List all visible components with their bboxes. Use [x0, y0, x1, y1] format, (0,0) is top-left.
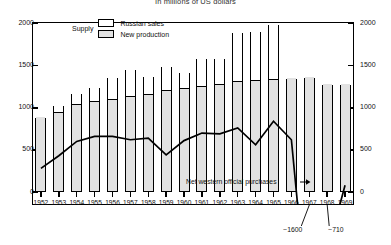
bar-segment-new-production-1964 — [251, 81, 260, 191]
bar-segment-new-production-1954 — [72, 105, 81, 191]
bar-segment-new-production-1958 — [144, 95, 153, 191]
y-tick-label-right-1500: 1500 — [360, 61, 376, 68]
annotation-1600: −1600 — [283, 226, 302, 233]
legend-swatch-russian-sales — [98, 19, 114, 27]
legend-label-russian-sales: Russian sales — [120, 20, 164, 27]
bar-1952 — [35, 118, 46, 192]
bar-segment-new-production-1967 — [305, 77, 314, 191]
bar-1953 — [53, 106, 64, 192]
chart-legend: Supply Russian sales New production — [72, 19, 169, 38]
line-label: Net western official purchases — [186, 178, 277, 185]
bar-1959 — [161, 67, 172, 192]
legend-item-russian-sales: Russian sales — [98, 19, 169, 27]
y-tick-mark — [32, 233, 38, 235]
chart-title: In millions of US dollars — [0, 0, 391, 6]
bar-segment-new-production-1960 — [180, 89, 189, 191]
bar-segment-new-production-1953 — [54, 113, 63, 191]
bar-segment-new-production-1957 — [126, 97, 135, 191]
bar-segment-new-production-1968 — [323, 84, 332, 191]
bar-1958 — [143, 77, 154, 192]
annotation-leader — [327, 205, 329, 226]
legend-item-new-production: New production — [98, 30, 169, 38]
bar-1955 — [89, 88, 100, 192]
bar-segment-russian-sales-1953 — [54, 105, 63, 113]
y-tick-label-left-500: 500 — [0, 145, 34, 152]
legend-group-label: Supply — [72, 25, 93, 32]
bar-segment-new-production-1952 — [36, 117, 45, 191]
bar-segment-new-production-1956 — [108, 100, 117, 191]
bar-1954 — [71, 94, 82, 192]
bar-segment-new-production-1962 — [215, 85, 224, 191]
y-tick-label-right--500: −500 — [360, 230, 376, 237]
bar-1968 — [322, 85, 333, 192]
bar-1966 — [286, 79, 297, 192]
bar-segment-new-production-1965 — [269, 80, 278, 191]
bar-segment-russian-sales-1956 — [108, 77, 117, 100]
bar-1969 — [340, 85, 351, 192]
bar-segment-new-production-1969 — [341, 84, 350, 191]
bar-1964 — [250, 32, 261, 192]
y-tick-label-right-500: 500 — [360, 145, 372, 152]
bar-1957 — [125, 70, 136, 192]
y-tick-label-left--500: −500 — [0, 230, 34, 237]
bar-segment-russian-sales-1957 — [126, 69, 135, 97]
bar-segment-russian-sales-1961 — [197, 58, 206, 87]
bar-segment-russian-sales-1955 — [90, 87, 99, 102]
bar-segment-russian-sales-1965 — [269, 24, 278, 80]
below-axis-mask — [0, 205, 391, 245]
bar-segment-russian-sales-1959 — [162, 66, 171, 90]
bar-1965 — [268, 25, 279, 192]
chart-root: In millions of US dollars 20002000150015… — [0, 0, 391, 245]
legend-swatch-new-production — [98, 30, 114, 38]
bar-segment-russian-sales-1962 — [215, 58, 224, 85]
y-tick-label-left-2000: 2000 — [0, 19, 34, 26]
bar-1967 — [304, 78, 315, 192]
bar-segment-russian-sales-1954 — [72, 93, 81, 105]
legend-label-new-production: New production — [120, 31, 169, 38]
bar-segment-new-production-1955 — [90, 102, 99, 191]
bar-segment-russian-sales-1960 — [180, 72, 189, 89]
bar-1962 — [214, 59, 225, 192]
bar-segment-new-production-1966 — [287, 78, 296, 191]
bar-1960 — [179, 73, 190, 192]
y-tick-mark — [348, 233, 354, 235]
y-tick-label-right-2000: 2000 — [360, 19, 376, 26]
y-tick-label-left-0: 0 — [0, 188, 34, 195]
bar-segment-russian-sales-1963 — [233, 32, 242, 83]
annotation-710: −710 — [328, 226, 343, 233]
bar-segment-new-production-1961 — [197, 87, 206, 191]
y-tick-label-left-1000: 1000 — [0, 103, 34, 110]
bar-segment-new-production-1963 — [233, 82, 242, 191]
bar-1963 — [232, 33, 243, 192]
bar-1956 — [107, 78, 118, 192]
annotation-leader — [301, 205, 309, 226]
y-tick-label-left-1500: 1500 — [0, 61, 34, 68]
bar-segment-russian-sales-1964 — [251, 31, 260, 82]
y-tick-label-right-1000: 1000 — [360, 103, 376, 110]
y-tick-label-right-0: 0 — [360, 188, 364, 195]
bar-segment-new-production-1959 — [162, 91, 171, 191]
bar-segment-russian-sales-1958 — [144, 76, 153, 95]
bar-1961 — [196, 59, 207, 192]
